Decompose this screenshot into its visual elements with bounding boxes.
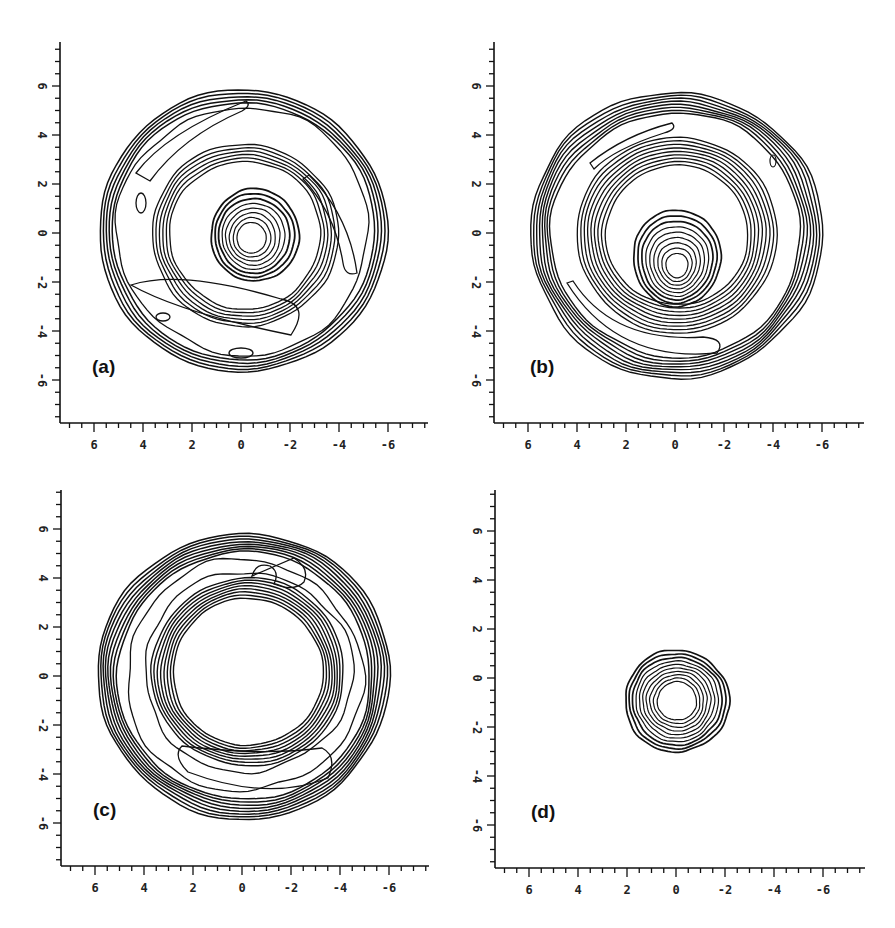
- x-tick-label: -6: [382, 881, 396, 895]
- y-tick-label: 2: [36, 623, 50, 630]
- contour-plot: 6420-2-4-66420-2-4-6: [1, 444, 441, 914]
- x-tick-label: -2: [718, 883, 732, 897]
- axes: 6420-2-4-66420-2-4-6: [470, 490, 865, 897]
- x-tick-label: 6: [91, 881, 98, 895]
- y-tick-label: 2: [470, 625, 484, 632]
- y-tick-label: -2: [469, 275, 483, 289]
- contour-lines: [100, 90, 388, 372]
- y-tick-label: 0: [469, 229, 483, 236]
- y-tick-label: -6: [36, 816, 50, 830]
- contour-plot: 6420-2-4-66420-2-4-6: [0, 0, 440, 470]
- x-tick-label: 0: [672, 883, 679, 897]
- y-tick-label: 4: [469, 131, 483, 138]
- y-tick-label: -4: [36, 767, 50, 781]
- x-tick-label: 4: [574, 883, 581, 897]
- y-tick-label: 4: [35, 131, 49, 138]
- y-tick-label: -4: [470, 769, 484, 783]
- x-tick-label: 2: [623, 883, 630, 897]
- y-tick-label: -6: [469, 373, 483, 387]
- y-tick-label: -2: [36, 718, 50, 732]
- x-tick-label: -4: [767, 883, 781, 897]
- x-tick-label: -2: [284, 881, 298, 895]
- panel-label: (d): [531, 801, 555, 823]
- panel-label: (c): [93, 799, 116, 821]
- contour-lines: [531, 93, 823, 380]
- y-tick-label: 0: [36, 672, 50, 679]
- y-tick-label: -6: [470, 818, 484, 832]
- y-tick-label: -4: [469, 324, 483, 338]
- y-tick-label: 6: [469, 82, 483, 89]
- y-tick-label: 6: [36, 525, 50, 532]
- contour-lines: [98, 533, 390, 819]
- axes: 6420-2-4-66420-2-4-6: [469, 42, 864, 452]
- contour-plot: 6420-2-4-66420-2-4-6: [435, 445, 875, 915]
- y-tick-label: 2: [469, 180, 483, 187]
- contour-plot: 6420-2-4-66420-2-4-6: [434, 0, 874, 470]
- y-tick-label: -2: [470, 720, 484, 734]
- y-tick-label: -6: [35, 373, 49, 387]
- x-tick-label: -6: [816, 883, 830, 897]
- y-tick-label: 4: [470, 576, 484, 583]
- panel-label: (b): [530, 356, 554, 378]
- x-tick-label: 2: [189, 881, 196, 895]
- panel-label: (a): [92, 356, 115, 378]
- x-tick-label: -4: [333, 881, 347, 895]
- y-tick-label: -4: [35, 324, 49, 338]
- y-tick-label: 0: [470, 674, 484, 681]
- y-tick-label: -2: [35, 275, 49, 289]
- y-tick-label: 6: [35, 82, 49, 89]
- y-tick-label: 6: [470, 527, 484, 534]
- contour-lines: [626, 651, 730, 753]
- y-tick-label: 4: [36, 574, 50, 581]
- x-tick-label: 6: [525, 883, 532, 897]
- y-tick-label: 2: [35, 180, 49, 187]
- y-tick-label: 0: [35, 229, 49, 236]
- x-tick-label: 0: [238, 881, 245, 895]
- x-tick-label: 4: [140, 881, 147, 895]
